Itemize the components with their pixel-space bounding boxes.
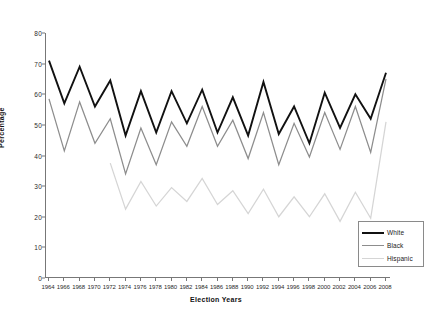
x-tick-mark <box>262 277 263 281</box>
x-tick-label: 1996 <box>287 284 300 290</box>
legend-label: Black <box>387 242 403 249</box>
x-tick-mark <box>171 277 172 281</box>
y-tick-label: 30 <box>0 183 42 190</box>
x-tick-label: 1988 <box>225 284 238 290</box>
series-line-white <box>49 61 386 144</box>
x-tick-label: 2002 <box>333 284 346 290</box>
legend-label: Hispanic <box>387 255 413 262</box>
plot-area <box>45 33 390 278</box>
series-line-black <box>49 79 386 174</box>
x-tick-mark <box>48 277 49 281</box>
x-tick-mark <box>370 277 371 281</box>
x-tick-label: 2004 <box>348 284 361 290</box>
legend-swatch <box>362 232 384 234</box>
x-tick-mark <box>354 277 355 281</box>
x-axis-label: Election Years <box>0 296 432 303</box>
y-tick-label: 70 <box>0 60 42 67</box>
x-tick-mark <box>324 277 325 281</box>
y-tick-label: 20 <box>0 213 42 220</box>
chart-legend: WhiteBlackHispanic <box>358 221 424 267</box>
x-tick-mark <box>339 277 340 281</box>
chart-figure: Percentage 01020304050607080 19641966196… <box>0 0 432 315</box>
y-tick-label: 0 <box>0 275 42 282</box>
x-tick-mark <box>140 277 141 281</box>
series-canvas <box>46 33 391 278</box>
x-tick-label: 1972 <box>103 284 116 290</box>
x-tick-label: 1966 <box>57 284 70 290</box>
x-tick-label: 1974 <box>118 284 131 290</box>
x-tick-label: 1998 <box>302 284 315 290</box>
x-tick-mark <box>385 277 386 281</box>
legend-item-black[interactable]: Black <box>362 239 420 252</box>
x-tick-mark <box>155 277 156 281</box>
x-tick-label: 1970 <box>87 284 100 290</box>
x-tick-label: 1992 <box>256 284 269 290</box>
y-tick-label: 60 <box>0 91 42 98</box>
x-tick-label: 2006 <box>363 284 376 290</box>
x-tick-label: 1980 <box>164 284 177 290</box>
legend-item-white[interactable]: White <box>362 226 420 239</box>
x-tick-mark <box>79 277 80 281</box>
x-tick-mark <box>278 277 279 281</box>
x-tick-label: 1982 <box>179 284 192 290</box>
legend-label: White <box>387 229 404 236</box>
x-tick-label: 1994 <box>271 284 284 290</box>
x-tick-label: 1968 <box>72 284 85 290</box>
x-tick-mark <box>201 277 202 281</box>
legend-item-hispanic[interactable]: Hispanic <box>362 252 420 265</box>
x-tick-mark <box>293 277 294 281</box>
x-tick-label: 1976 <box>133 284 146 290</box>
x-tick-label: 1984 <box>195 284 208 290</box>
y-tick-label: 40 <box>0 152 42 159</box>
x-tick-mark <box>247 277 248 281</box>
x-tick-label: 1990 <box>241 284 254 290</box>
x-tick-label: 2000 <box>317 284 330 290</box>
x-tick-mark <box>308 277 309 281</box>
x-tick-mark <box>217 277 218 281</box>
x-tick-mark <box>232 277 233 281</box>
x-tick-mark <box>63 277 64 281</box>
series-group <box>46 33 391 278</box>
x-tick-mark <box>125 277 126 281</box>
y-tick-label: 50 <box>0 121 42 128</box>
y-tick-label: 80 <box>0 30 42 37</box>
x-tick-mark <box>109 277 110 281</box>
x-tick-mark <box>94 277 95 281</box>
x-tick-label: 1986 <box>210 284 223 290</box>
legend-swatch <box>362 258 384 259</box>
x-tick-label: 2008 <box>379 284 392 290</box>
x-tick-mark <box>186 277 187 281</box>
y-tick-label: 10 <box>0 244 42 251</box>
legend-swatch <box>362 245 384 246</box>
x-tick-label: 1978 <box>149 284 162 290</box>
x-tick-label: 1964 <box>42 284 55 290</box>
